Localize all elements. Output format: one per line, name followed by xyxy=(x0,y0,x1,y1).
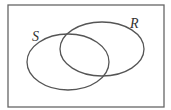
universe-rectangle xyxy=(8,5,164,107)
venn-diagram: S R xyxy=(0,0,171,110)
set-s-ellipse xyxy=(27,34,109,90)
set-r-label: R xyxy=(129,16,139,31)
set-s-label: S xyxy=(32,29,39,44)
